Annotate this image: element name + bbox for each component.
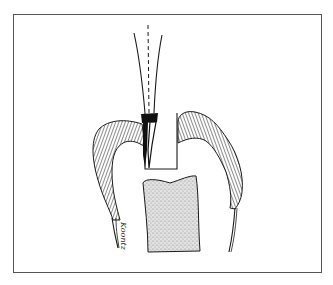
bur-center-axis <box>148 25 149 113</box>
root-outline-right <box>229 208 235 252</box>
pulp-chamber <box>143 176 200 252</box>
artist-signature: Koontz <box>119 222 128 250</box>
dental-illustration: Koontz <box>0 0 333 285</box>
enamel-left <box>93 121 145 220</box>
bur-shank <box>134 33 162 113</box>
